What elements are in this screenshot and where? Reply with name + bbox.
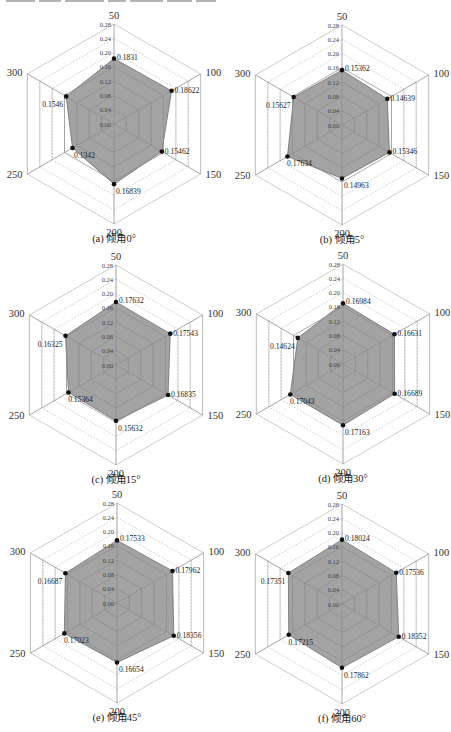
- axis-label-150: 150: [208, 410, 224, 421]
- data-point-marker: [392, 332, 397, 337]
- data-value-label: 0.17351: [261, 577, 286, 586]
- chart-caption: (c) 倾角15°: [92, 473, 141, 486]
- radial-tick-label: 0.20: [103, 528, 114, 535]
- data-point-marker: [160, 149, 165, 154]
- axis-spokes: [27, 24, 200, 224]
- data-value-label: 0.16984: [346, 297, 371, 306]
- data-point-marker: [62, 631, 67, 636]
- data-point-marker: [114, 300, 119, 305]
- data-value-label: 0.14639: [390, 94, 415, 103]
- radial-tick-label: 0.20: [102, 290, 113, 297]
- data-point-marker: [168, 331, 173, 336]
- axis-label-300: 300: [235, 68, 251, 79]
- data-point-marker: [70, 146, 75, 151]
- data-value-label: 0.17536: [399, 568, 424, 577]
- data-point-marker: [340, 68, 345, 73]
- data-value-label: 0.15632: [118, 424, 143, 433]
- radial-tick-label: 0.00: [102, 362, 113, 369]
- chart-caption: (a) 倾角0°: [92, 232, 136, 245]
- axis-label-250: 250: [236, 409, 252, 420]
- axis-label-150: 150: [206, 169, 222, 180]
- radial-tick-label: 0.08: [103, 571, 114, 578]
- axis-label-250: 250: [235, 649, 251, 660]
- chart-caption: (b) 倾角5°: [320, 233, 364, 246]
- chart-caption: (e) 倾角45°: [93, 711, 142, 724]
- radar-chart-figure: 0.000.040.080.120.160.200.240.2850100150…: [0, 0, 451, 732]
- axis-label-100: 100: [434, 547, 450, 558]
- axis-label-150: 150: [435, 409, 451, 420]
- data-point-marker: [340, 176, 345, 181]
- radar-chart-f: 0.000.040.080.120.160.200.240.2850100150…: [235, 490, 450, 725]
- axis-label-100: 100: [208, 308, 224, 319]
- data-value-label: 0.17632: [119, 296, 144, 305]
- chart-caption: (d) 倾角30°: [318, 472, 368, 485]
- radar-chart-b: 0.000.040.080.120.160.200.240.2850100150…: [235, 11, 450, 246]
- data-point-marker: [396, 634, 401, 639]
- data-point-marker: [341, 301, 346, 306]
- data-value-label: 0.16835: [171, 390, 196, 399]
- data-value-label: 0.18352: [402, 632, 427, 641]
- axis-label-250: 250: [10, 648, 26, 659]
- radar-chart-e: 0.000.040.080.120.160.200.240.2850100150…: [10, 489, 225, 724]
- radial-tick-label: 0.20: [328, 529, 339, 536]
- data-value-label: 0.15627: [266, 101, 291, 110]
- radial-tick-label: 0.12: [329, 318, 340, 325]
- data-value-label: 0.14963: [344, 181, 369, 190]
- radial-tick-label: 0.24: [328, 36, 340, 43]
- radial-tick-label: 0.08: [328, 572, 339, 579]
- data-value-label: 0.17023: [64, 636, 89, 645]
- axis-label-150: 150: [434, 170, 450, 181]
- axis-label-250: 250: [7, 169, 23, 180]
- radial-tick-label: 0.12: [328, 558, 339, 565]
- data-point-marker: [169, 88, 174, 93]
- axis-label-50: 50: [109, 10, 120, 21]
- axis-label-300: 300: [236, 307, 252, 318]
- radial-tick-label: 0.00: [329, 361, 340, 368]
- radial-tick-label: 0.12: [103, 557, 114, 564]
- radial-tick-label: 0.00: [328, 122, 339, 129]
- radial-tick-label: 0.00: [103, 600, 114, 607]
- data-point-marker: [112, 182, 117, 187]
- data-value-label: 0.15364: [68, 395, 93, 404]
- radial-tick-label: 0.16: [328, 64, 340, 71]
- data-point-marker: [285, 154, 290, 159]
- data-value-label: 0.1831: [117, 53, 138, 62]
- axis-label-50: 50: [112, 489, 123, 500]
- data-point-marker: [394, 570, 399, 575]
- radial-tick-label: 0.24: [102, 276, 114, 283]
- data-point-marker: [64, 94, 69, 99]
- axis-label-150: 150: [209, 648, 225, 659]
- data-value-label: 0.18024: [345, 534, 370, 543]
- radial-tick-label: 0.20: [329, 289, 340, 296]
- data-value-label: 0.15462: [165, 147, 190, 156]
- radial-tick-label: 0.04: [328, 107, 340, 114]
- data-value-label: 0.16839: [116, 187, 141, 196]
- radial-tick-label: 0.04: [100, 106, 112, 113]
- data-point-marker: [114, 419, 119, 424]
- data-value-label: 0.18622: [175, 86, 200, 95]
- data-point-marker: [171, 633, 176, 638]
- data-point-marker: [170, 569, 175, 574]
- radial-tick-label: 0.16: [103, 542, 115, 549]
- radar-chart-a: 0.000.040.080.120.160.200.240.2850100150…: [7, 10, 222, 245]
- axis-label-300: 300: [9, 308, 25, 319]
- radial-tick-label: 0.24: [328, 515, 340, 522]
- data-value-label: 0.17163: [345, 428, 370, 437]
- axis-label-300: 300: [235, 547, 251, 558]
- radial-tick-label: 0.20: [100, 49, 111, 56]
- data-point-marker: [340, 665, 345, 670]
- data-point-marker: [63, 571, 68, 576]
- data-value-label: 0.14624: [270, 342, 295, 351]
- radial-tick-label: 0.08: [328, 93, 339, 100]
- data-point-marker: [387, 150, 392, 155]
- axis-spokes: [255, 25, 428, 225]
- radial-tick-label: 0.24: [329, 275, 341, 282]
- radial-tick-label: 0.24: [100, 35, 112, 42]
- data-value-label: 0.17862: [344, 671, 369, 680]
- data-point-marker: [63, 334, 68, 339]
- data-point-marker: [385, 97, 390, 102]
- data-value-label: 0.15362: [345, 64, 370, 73]
- axis-label-150: 150: [434, 649, 450, 660]
- axis-label-300: 300: [7, 67, 23, 78]
- data-value-label: 0.16631: [397, 329, 422, 338]
